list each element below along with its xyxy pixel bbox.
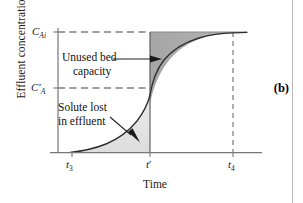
annotation-unused-bed-capacity-line1: Unused bed — [62, 51, 117, 65]
x-axis-label: Time — [110, 178, 200, 190]
annotation-solute-lost: Solute lost in effluent — [58, 101, 107, 128]
solute-lost-leader-line — [110, 117, 131, 135]
x-tick-label-t-prime: t′ — [146, 158, 151, 170]
y-tick-label-c-a-prime: C′A — [31, 81, 45, 96]
y-tick-label-c-ai: CAi — [32, 25, 46, 40]
annotation-unused-bed-capacity: Unused bed capacity — [62, 51, 117, 78]
y-axis-label: Effluent concentration — [15, 0, 27, 121]
annotation-unused-bed-capacity-line2: capacity — [62, 65, 117, 79]
x-tick-label-t4: t4 — [228, 158, 235, 173]
unused-bed-capacity-area — [150, 32, 233, 105]
panel-label: (b) — [274, 81, 289, 96]
page-rule — [292, 0, 293, 203]
annotation-solute-lost-line1: Solute lost — [58, 101, 107, 115]
x-tick-label-t3: t3 — [66, 158, 73, 173]
annotation-solute-lost-line2: in effluent — [58, 115, 107, 129]
